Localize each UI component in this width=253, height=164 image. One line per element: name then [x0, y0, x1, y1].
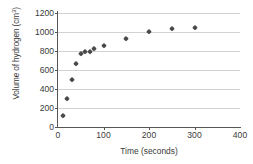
plot-area	[58, 13, 240, 127]
gridline	[58, 13, 240, 14]
y-axis-title: Volume of hydrogen (cm3)	[11, 0, 22, 113]
y-tick-label: 800	[24, 47, 54, 56]
x-tick-mark	[149, 127, 150, 130]
y-tick-label: 200	[24, 104, 54, 113]
data-point	[123, 36, 129, 42]
x-tick-label: 0	[41, 131, 75, 140]
y-tick-mark	[55, 13, 58, 14]
y-tick-mark	[55, 89, 58, 90]
gridline	[58, 89, 240, 90]
y-tick-mark	[55, 127, 58, 128]
y-tick-label: 1200	[24, 9, 54, 18]
x-tick-label: 100	[87, 131, 121, 140]
data-point	[73, 61, 79, 67]
y-axis-title-superscript: 3	[11, 10, 17, 13]
y-tick-label: 1000	[24, 28, 54, 37]
x-tick-label: 400	[223, 131, 253, 140]
x-tick-label: 200	[132, 131, 166, 140]
data-point	[59, 112, 65, 118]
y-axis-title-paren: )	[12, 7, 21, 10]
y-tick-label: 400	[24, 85, 54, 94]
gridline	[58, 108, 240, 109]
data-point	[69, 77, 75, 83]
y-tick-mark	[55, 51, 58, 52]
y-axis-title-text: Volume of hydrogen (cm	[12, 13, 21, 100]
x-tick-mark	[195, 127, 196, 130]
chart-container: Volume of hydrogen (cm3) 020040060080010…	[0, 0, 253, 164]
y-tick-label: 0	[24, 123, 54, 132]
y-tick-mark	[55, 108, 58, 109]
y-tick-mark	[55, 32, 58, 33]
data-point	[169, 26, 175, 32]
data-point	[64, 96, 70, 102]
x-axis-title: Time (seconds)	[58, 146, 240, 156]
gridline	[58, 70, 240, 71]
y-tick-label: 600	[24, 66, 54, 75]
x-tick-mark	[104, 127, 105, 130]
data-point	[100, 43, 106, 49]
y-tick-mark	[55, 70, 58, 71]
data-point	[191, 25, 197, 31]
x-tick-label: 300	[178, 131, 212, 140]
